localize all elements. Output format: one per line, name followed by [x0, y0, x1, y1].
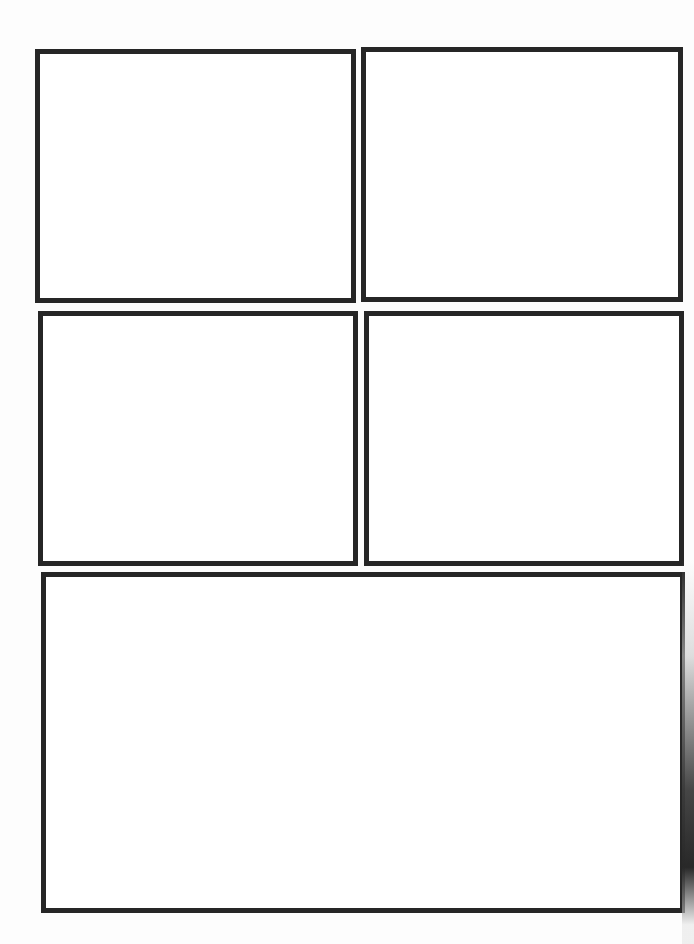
comic-panel-3 [38, 311, 358, 566]
comic-panel-4 [364, 311, 684, 566]
comic-panel-2 [361, 47, 683, 302]
comic-panel-5-wide [41, 572, 685, 913]
scan-edge-shadow [682, 560, 694, 944]
comic-panel-1 [35, 49, 356, 303]
